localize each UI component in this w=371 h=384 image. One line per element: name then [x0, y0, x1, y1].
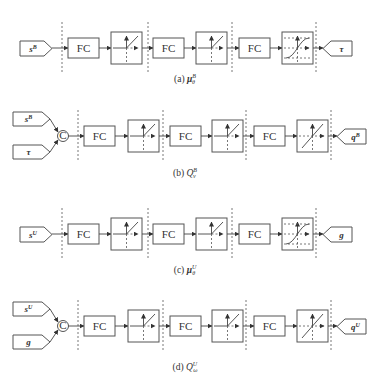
panel-caption: (b) QBν [173, 167, 197, 179]
tanh-activation-icon [282, 32, 313, 64]
linear-activation-icon [297, 120, 328, 152]
fc-layer-label: FC [77, 228, 90, 240]
fc-layer-label: FC [248, 228, 261, 240]
fc-layer-label: FC [263, 320, 276, 332]
tanh-activation-icon [282, 218, 313, 250]
relu-activation-icon [196, 32, 227, 64]
output-node [323, 41, 352, 56]
fc-layer-label: FC [162, 228, 175, 240]
panel-d: sUgCFCFCFCqU(d) QUω [13, 300, 366, 373]
network-architecture-diagram: sBFCFCFCτ(a) μBθsBτCFCFCFCqB(b) QBνsUFCF… [0, 0, 371, 384]
concat-label: C [59, 319, 66, 331]
concat-label: C [59, 129, 66, 141]
panel-c: sUFCFCFCg(c) μUθ [20, 208, 352, 276]
relu-activation-icon [212, 120, 243, 152]
fc-layer-label: FC [248, 42, 261, 54]
linear-activation-icon [297, 310, 328, 342]
fc-layer-label: FC [162, 42, 175, 54]
fc-layer-label: FC [77, 42, 90, 54]
relu-activation-icon [111, 218, 142, 250]
panel-a: sBFCFCFCτ(a) μBθ [20, 22, 352, 85]
fc-layer-label: FC [179, 320, 192, 332]
panel-caption: (a) μBθ [174, 73, 196, 85]
relu-activation-icon [212, 310, 243, 342]
fc-layer-label: FC [93, 130, 106, 142]
relu-activation-icon [196, 218, 227, 250]
output-node-label: g [338, 230, 344, 240]
fc-layer-label: FC [93, 320, 106, 332]
fc-layer-label: FC [263, 130, 276, 142]
output-node [323, 227, 352, 242]
relu-activation-icon [128, 120, 159, 152]
input-action [13, 335, 50, 349]
panel-caption: (d) QUω [173, 361, 198, 373]
relu-activation-icon [111, 32, 142, 64]
fc-layer-label: FC [179, 130, 192, 142]
input-action [13, 145, 50, 159]
panel-caption: (c) μUθ [174, 264, 197, 276]
relu-activation-icon [128, 310, 159, 342]
panel-b: sBτCFCFCFCqB(b) QBν [13, 110, 366, 179]
input-action-label: g [25, 337, 31, 347]
